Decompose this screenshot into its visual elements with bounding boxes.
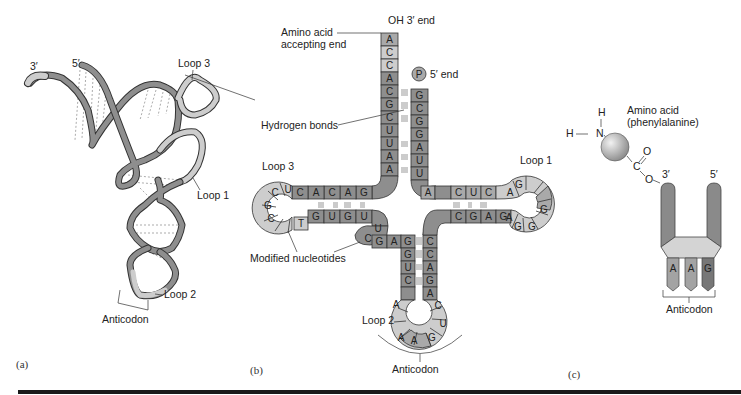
svg-text:G: G	[344, 211, 352, 222]
trna-figure: 3′ 5′ Loop 3 Loop 1 Loop 2 Anticodon (a)…	[0, 0, 741, 395]
svg-text:A: A	[386, 34, 393, 45]
atom-o-double: O	[643, 145, 651, 157]
svg-text:G: G	[416, 90, 424, 101]
panel-a-loop2-label: Loop 2	[164, 288, 196, 300]
svg-text:U: U	[416, 155, 423, 166]
svg-text:U: U	[404, 262, 411, 273]
panel-a-5prime-label: 5′	[72, 57, 80, 69]
svg-text:G: G	[515, 179, 523, 190]
svg-text:A: A	[386, 151, 393, 162]
panel-a-3prime-label: 3′	[30, 60, 38, 72]
svg-text:G: G	[528, 221, 536, 232]
d-arm-hbonds	[318, 202, 365, 208]
loop3-label: Loop 3	[262, 160, 294, 172]
svg-text:A: A	[345, 187, 352, 198]
svg-text:A: A	[386, 73, 393, 84]
anticodon-loop: A A A G U C	[391, 299, 447, 350]
amino-acid-accepting-label-2: accepting end	[281, 38, 347, 50]
svg-text:C: C	[404, 275, 411, 286]
svg-text:A: A	[398, 332, 405, 343]
svg-text:A: A	[425, 187, 432, 198]
svg-text:A: A	[506, 212, 513, 223]
t-arm-hbonds	[453, 202, 487, 208]
panel-a-ribbon: 3′ 5′ Loop 3 Loop 1 Loop 2 Anticodon (a)	[16, 57, 229, 371]
panel-a-loop1-label: Loop 1	[197, 189, 229, 201]
panel-c-anticodon-label: Anticodon	[666, 303, 713, 315]
svg-text:G: G	[426, 275, 434, 286]
svg-text:T: T	[298, 218, 304, 229]
svg-text:G: G	[404, 249, 412, 260]
svg-text:A: A	[393, 299, 400, 310]
panel-c-base-3: G	[704, 263, 712, 274]
svg-text:G: G	[386, 99, 394, 110]
svg-text:A: A	[507, 187, 514, 198]
svg-text:U: U	[374, 223, 381, 234]
panel-a-anticodon-label: Anticodon	[102, 313, 149, 325]
anticodon-stem-left: G A G G U C	[372, 235, 415, 300]
svg-text:U: U	[386, 138, 393, 149]
svg-text:G: G	[428, 332, 436, 343]
anticodon-hbonds	[416, 237, 422, 285]
svg-text:C: C	[386, 86, 393, 97]
t-arm-top: A C U C	[421, 186, 496, 199]
svg-text:G: G	[514, 221, 522, 232]
svg-text:G: G	[360, 187, 368, 198]
acceptor-stem-3prime: A C C A C G C U U A A	[381, 33, 398, 176]
anticodon-label: Anticodon	[392, 363, 439, 375]
svg-text:U: U	[470, 187, 477, 198]
atom-n: N	[596, 127, 604, 139]
d-arm-top: G A C A C	[292, 186, 372, 199]
svg-text:C: C	[271, 187, 278, 198]
svg-text:G: G	[404, 236, 412, 247]
svg-text:A: A	[313, 187, 320, 198]
amino-acid-ball-icon	[601, 133, 629, 161]
atom-c: C	[633, 160, 641, 172]
panel-c-base-2: A	[688, 263, 695, 274]
svg-text:C: C	[455, 187, 462, 198]
bottom-rule	[18, 390, 741, 394]
svg-text:U: U	[416, 168, 423, 179]
svg-text:A: A	[427, 262, 434, 273]
svg-text:A: A	[427, 288, 434, 299]
acceptor-stem-5prime: P G C G G A U U	[411, 67, 428, 180]
svg-text:P: P	[416, 69, 423, 80]
loop1-label: Loop 1	[520, 154, 552, 166]
amino-acid-label-2: (phenylalanine)	[627, 116, 699, 128]
atom-h-left: H	[566, 127, 574, 139]
panel-c-anticodon-bracket	[663, 290, 715, 297]
svg-text:C: C	[386, 47, 393, 58]
svg-text:A: A	[411, 335, 418, 346]
svg-text:A: A	[416, 142, 423, 153]
svg-text:A: A	[485, 211, 492, 222]
oh-3prime-end-label: OH 3′ end	[388, 14, 435, 26]
hydrogen-bonds-label: Hydrogen bonds	[261, 119, 338, 131]
panel-c-5prime-label: 5′	[710, 168, 718, 180]
svg-text:C: C	[455, 211, 462, 222]
panel-a-loop3-label: Loop 3	[178, 57, 210, 69]
svg-text:G: G	[416, 116, 424, 127]
t-loop: A G G G G A	[496, 176, 554, 232]
panel-c-base-1: A	[670, 263, 677, 274]
amino-acid-label-1: Amino acid	[627, 104, 679, 116]
panel-b-cloverleaf: A C C A C G C U U A A P G C G G A U U	[250, 14, 554, 377]
svg-text:G: G	[376, 236, 384, 247]
svg-text:G: G	[416, 129, 424, 140]
svg-text:G: G	[312, 211, 320, 222]
svg-text:U: U	[360, 211, 367, 222]
svg-text:A: A	[386, 164, 393, 175]
svg-text:C: C	[267, 213, 274, 224]
svg-text:U: U	[328, 211, 335, 222]
svg-text:C: C	[434, 300, 441, 311]
panel-b-caption: (b)	[250, 364, 263, 377]
panel-c-3prime-label: 3′	[662, 168, 670, 180]
panel-c-caption: (c)	[568, 368, 581, 381]
amino-acid-accepting-label-1: Amino acid	[281, 26, 333, 38]
svg-text:C: C	[426, 236, 433, 247]
panel-a-caption: (a)	[16, 358, 29, 371]
svg-text:G: G	[540, 204, 548, 215]
svg-text:G: G	[264, 200, 272, 211]
svg-text:A: A	[391, 236, 398, 247]
svg-text:U: U	[439, 318, 446, 329]
atom-o-link: O	[645, 173, 653, 185]
loop2-label: Loop 2	[362, 314, 394, 326]
